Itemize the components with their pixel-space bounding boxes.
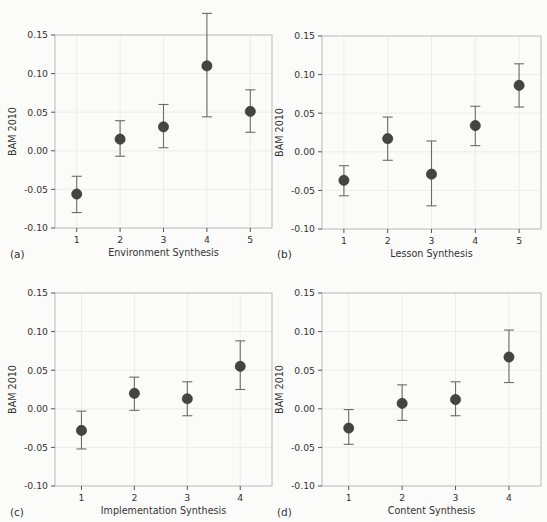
x-axis-title: Content Synthesis	[388, 505, 475, 516]
x-tick-label: 3	[453, 492, 459, 503]
data-point-marker	[339, 175, 349, 185]
x-tick-label: 1	[79, 492, 85, 503]
y-tick-label: -0.10	[291, 223, 315, 234]
y-tick-label: 0.00	[294, 146, 315, 157]
x-tick-label: 5	[516, 235, 522, 246]
panel-tag-a: (a)	[10, 248, 25, 260]
y-tick-label: 0.15	[27, 287, 48, 298]
x-tick-label: 2	[385, 235, 391, 246]
panel-tag-c: (c)	[10, 506, 24, 518]
y-axis-title: BAM 2010	[274, 365, 285, 414]
x-axis-title: Implementation Synthesis	[101, 505, 226, 516]
x-tick-label: 1	[74, 234, 80, 245]
plot-svg-a: 0.150.100.050.00-0.05-0.1012345BAM 2010E…	[0, 0, 274, 266]
data-point-marker	[72, 189, 82, 199]
y-tick-label: 0.15	[27, 29, 48, 40]
data-point-marker	[235, 361, 245, 371]
data-point-marker	[344, 423, 354, 433]
data-point-marker	[397, 398, 407, 408]
plot-svg-d: 0.150.100.050.00-0.05-0.101234BAM 2010Co…	[273, 266, 547, 522]
y-tick-label: 0.05	[294, 108, 315, 119]
x-tick-label: 4	[472, 235, 478, 246]
y-tick-label: -0.05	[24, 184, 48, 195]
data-point-marker	[245, 106, 255, 116]
y-tick-label: 0.10	[294, 326, 315, 337]
chart-panel-a: 0.150.100.050.00-0.05-0.1012345BAM 2010E…	[0, 0, 274, 266]
chart-panel-c: 0.150.100.050.00-0.05-0.101234BAM 2010Im…	[0, 266, 274, 522]
x-axis-title: Lesson Synthesis	[390, 248, 472, 259]
y-tick-label: 0.00	[27, 145, 48, 156]
x-axis-title: Environment Synthesis	[108, 247, 219, 258]
y-tick-label: 0.10	[294, 69, 315, 80]
y-axis-title: BAM 2010	[7, 107, 18, 156]
panel-tag-d: (d)	[277, 506, 292, 518]
y-tick-label: -0.05	[291, 185, 315, 196]
x-tick-label: 4	[204, 234, 210, 245]
data-point-marker	[383, 134, 393, 144]
data-point-marker	[426, 169, 436, 179]
data-point-marker	[115, 134, 125, 144]
data-point-marker	[470, 120, 480, 130]
x-tick-label: 3	[429, 235, 435, 246]
data-point-marker	[450, 394, 460, 404]
panel-tag-b: (b)	[277, 248, 292, 260]
data-point-marker	[202, 61, 212, 71]
y-axis-title: BAM 2010	[7, 365, 18, 414]
y-tick-label: -0.05	[291, 442, 315, 453]
y-tick-label: 0.15	[294, 30, 315, 41]
x-tick-label: 4	[237, 492, 243, 503]
x-tick-label: 2	[131, 492, 137, 503]
x-tick-label: 3	[184, 492, 190, 503]
x-tick-label: 1	[346, 492, 352, 503]
x-tick-label: 4	[506, 492, 512, 503]
figure-panel-grid: 0.150.100.050.00-0.05-0.1012345BAM 2010E…	[0, 0, 547, 522]
x-tick-label: 5	[247, 234, 253, 245]
y-tick-label: 0.15	[294, 287, 315, 298]
data-point-marker	[158, 122, 168, 132]
y-tick-label: 0.05	[294, 365, 315, 376]
data-point-marker	[76, 425, 86, 435]
plot-svg-c: 0.150.100.050.00-0.05-0.101234BAM 2010Im…	[0, 266, 274, 522]
chart-panel-b: 0.150.100.050.00-0.05-0.1012345BAM 2010L…	[273, 0, 547, 266]
data-point-marker	[514, 80, 524, 90]
y-axis-title: BAM 2010	[274, 108, 285, 157]
x-tick-label: 2	[117, 234, 123, 245]
y-tick-label: 0.05	[27, 365, 48, 376]
y-tick-label: 0.05	[27, 107, 48, 118]
plot-svg-b: 0.150.100.050.00-0.05-0.1012345BAM 2010L…	[273, 0, 547, 266]
x-tick-label: 1	[341, 235, 347, 246]
y-tick-label: -0.05	[24, 442, 48, 453]
data-point-marker	[504, 352, 514, 362]
y-tick-label: 0.00	[294, 403, 315, 414]
y-tick-label: -0.10	[24, 222, 48, 233]
y-tick-label: 0.00	[27, 403, 48, 414]
x-tick-label: 3	[161, 234, 167, 245]
y-tick-label: 0.10	[27, 326, 48, 337]
y-tick-label: 0.10	[27, 68, 48, 79]
data-point-marker	[182, 394, 192, 404]
x-tick-label: 2	[399, 492, 405, 503]
data-point-marker	[129, 388, 139, 398]
chart-panel-d: 0.150.100.050.00-0.05-0.101234BAM 2010Co…	[273, 266, 547, 522]
y-tick-label: -0.10	[291, 480, 315, 491]
y-tick-label: -0.10	[24, 480, 48, 491]
